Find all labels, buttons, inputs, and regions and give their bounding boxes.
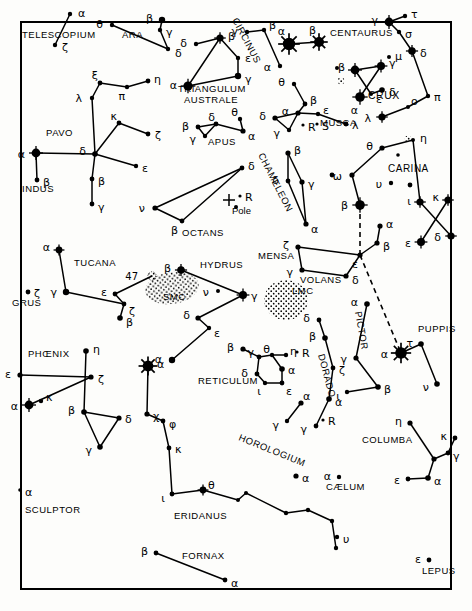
star-tra-d[interactable] [194, 42, 198, 46]
star-ret-th[interactable] [270, 353, 274, 357]
star-pavo-yy[interactable] [90, 202, 95, 207]
star-hyd-d[interactable] [195, 315, 200, 320]
star-ps-eri2[interactable] [244, 491, 248, 495]
star-ret-e[interactable] [280, 381, 285, 386]
star-cha-y[interactable] [299, 179, 304, 184]
star-pic-y[interactable] [353, 355, 358, 360]
star-mus-y[interactable] [287, 128, 291, 132]
star-cha-a[interactable] [303, 221, 308, 226]
star-dor-d[interactable] [317, 318, 322, 323]
star-pavo-pi[interactable] [125, 85, 129, 89]
star-for-a[interactable] [223, 578, 228, 583]
star-cen-s[interactable] [397, 30, 401, 34]
star-col-k[interactable] [453, 436, 458, 441]
star-pavo-dd[interactable] [92, 151, 98, 157]
star-pup-n[interactable] [434, 381, 440, 387]
star-pavo-bb[interactable] [90, 177, 95, 182]
star-oct-d[interactable] [240, 166, 245, 171]
star-oct-r[interactable] [238, 194, 241, 197]
star-ret-b[interactable] [240, 346, 245, 351]
star-phe-z[interactable] [88, 374, 93, 379]
star-mus-s[interactable] [315, 122, 318, 125]
star-ret-i[interactable] [263, 381, 267, 385]
star-cen-o[interactable] [406, 105, 410, 109]
star-tuc-e[interactable] [113, 292, 118, 297]
star-tel-a[interactable] [68, 12, 72, 16]
star-eri-phi[interactable] [161, 419, 166, 424]
star-tuc-z[interactable] [122, 302, 127, 307]
star-pavo-x[interactable] [98, 81, 103, 86]
star-ara-d[interactable] [166, 47, 170, 51]
star-tel-z[interactable] [53, 43, 57, 47]
star-dor-bb[interactable] [322, 335, 328, 341]
star-scl-a[interactable] [18, 488, 22, 492]
star-eri-i[interactable] [170, 492, 175, 497]
star-col-e[interactable] [406, 477, 411, 482]
star-phe-b[interactable] [81, 409, 87, 415]
star-mus-a[interactable] [295, 110, 300, 115]
star-car-u[interactable] [389, 181, 393, 185]
star-hyd-a[interactable] [169, 357, 175, 363]
star-cir-a[interactable] [278, 64, 282, 68]
star-apus-b[interactable] [196, 125, 201, 130]
star-tuc-y[interactable] [63, 289, 69, 295]
star-pavo-z[interactable] [146, 132, 151, 137]
star-col-eta[interactable] [407, 420, 412, 425]
star-phe-k[interactable] [39, 399, 43, 403]
star-tra-y[interactable] [235, 73, 241, 79]
star-dor-y[interactable] [314, 424, 319, 429]
star-ps-eri4[interactable] [306, 508, 310, 512]
star-tuc-b[interactable] [117, 315, 123, 321]
star-pup-t[interactable] [418, 341, 424, 347]
star-mus-d[interactable] [272, 115, 277, 120]
star-oct-b[interactable] [180, 219, 185, 224]
star-for-b[interactable] [154, 551, 159, 556]
star-mus-e[interactable] [316, 112, 320, 116]
star-col-m[interactable] [431, 456, 436, 461]
star-apus-th[interactable] [238, 117, 242, 121]
star-phe-d[interactable] [116, 415, 121, 420]
star-hor-y[interactable] [285, 419, 289, 423]
star-pic-a[interactable] [364, 301, 370, 307]
star-phe-e[interactable] [17, 372, 22, 377]
star-ps-eri5[interactable] [330, 519, 334, 523]
star-ara-y[interactable] [158, 28, 162, 32]
star-ind-b[interactable] [35, 178, 40, 183]
star-ret-eta[interactable] [284, 353, 288, 357]
star-car-w[interactable] [349, 172, 354, 177]
star-eri-k[interactable] [167, 446, 172, 451]
star-phe-eta[interactable] [83, 348, 89, 354]
star-mus-th[interactable] [292, 82, 296, 86]
star-ps-car2[interactable] [408, 183, 413, 188]
star-cir-b[interactable] [262, 28, 266, 32]
star-hor-a[interactable] [293, 473, 298, 478]
star-mus-r[interactable] [301, 123, 304, 126]
star-ps-eri3[interactable] [284, 511, 288, 515]
star-tra-e[interactable] [236, 56, 240, 60]
star-dor-r[interactable] [321, 418, 324, 421]
star-pic-i[interactable] [345, 390, 349, 394]
star-phe-y[interactable] [97, 444, 103, 450]
star-apus-y[interactable] [203, 134, 207, 138]
star-pavo-l[interactable] [90, 96, 94, 100]
star-vol-a[interactable] [377, 223, 382, 228]
star-cen-pi[interactable] [426, 94, 430, 98]
star-cae-a[interactable] [337, 475, 341, 479]
star-col-y[interactable] [446, 451, 451, 456]
star-eri-chi[interactable] [144, 411, 149, 416]
star-ps-eri6[interactable] [334, 546, 338, 550]
star-vol-y[interactable] [299, 267, 304, 272]
star-ps-car3[interactable] [396, 153, 400, 157]
star-vol-e[interactable] [357, 252, 362, 257]
star-oct-n[interactable] [152, 205, 157, 210]
star-pavo-k[interactable] [117, 121, 122, 126]
star-car-th[interactable] [379, 145, 384, 150]
star-mus-b[interactable] [303, 102, 308, 107]
star-pavo-e[interactable] [134, 164, 138, 168]
star-vol-d[interactable] [343, 273, 348, 278]
star-hyd-n[interactable] [216, 289, 220, 293]
star-apus-a[interactable] [240, 128, 245, 133]
star-ara-b[interactable] [159, 17, 165, 23]
star-ara-th[interactable] [110, 23, 114, 27]
star-hyd-e[interactable] [207, 326, 211, 330]
